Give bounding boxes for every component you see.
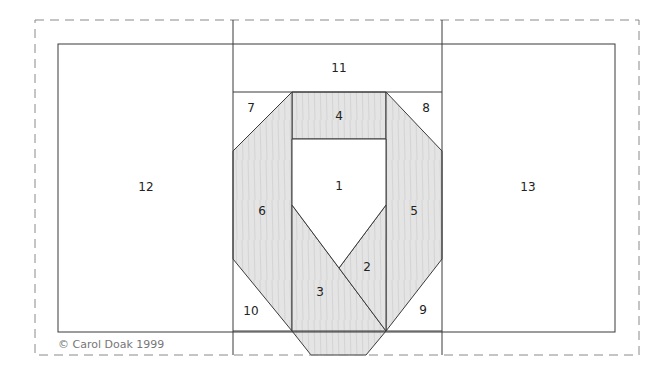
piece-label-5: 5 bbox=[410, 204, 418, 218]
piece-label-1: 1 bbox=[335, 179, 343, 193]
piece-label-10: 10 bbox=[243, 304, 258, 318]
piece-label-4: 4 bbox=[335, 109, 343, 123]
piece-label-2: 2 bbox=[363, 260, 371, 274]
piece-label-13: 13 bbox=[520, 180, 535, 194]
piece-label-8: 8 bbox=[422, 101, 430, 115]
piece-label-12: 12 bbox=[138, 180, 153, 194]
piece-label-11: 11 bbox=[331, 61, 346, 75]
piece-label-7: 7 bbox=[247, 101, 255, 115]
copyright-text: © Carol Doak 1999 bbox=[58, 338, 164, 351]
piece-label-3: 3 bbox=[316, 285, 324, 299]
piece-label-6: 6 bbox=[258, 204, 266, 218]
piece-label-9: 9 bbox=[419, 303, 427, 317]
